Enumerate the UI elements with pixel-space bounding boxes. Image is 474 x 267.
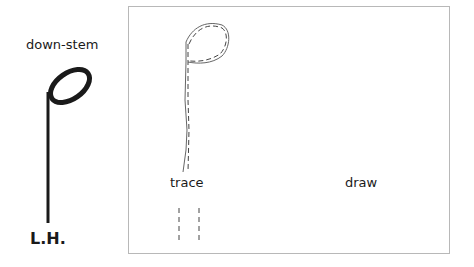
draw-label: draw [345,175,377,190]
trace-note-icon [0,0,474,267]
trace-label: trace [170,175,204,190]
